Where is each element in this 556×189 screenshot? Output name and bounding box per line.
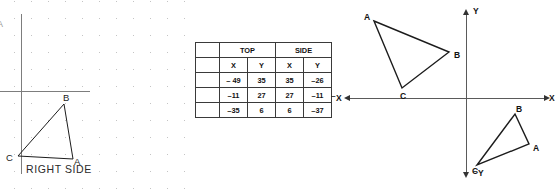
cell-top-x: – 49 (220, 73, 248, 88)
ul-vertex-label-c: C (400, 91, 406, 101)
sub-header-top-y: Y (248, 58, 276, 73)
coordinate-table: TOP SIDE X Y X Y – 49 35 35 –26 (195, 42, 332, 118)
lr-vertex-label-a: A (533, 143, 539, 153)
left-vertex-label-b: B (63, 92, 69, 103)
sub-header-blank (196, 58, 220, 73)
right-side-view-panel: A B C A RIGHT SIDE (0, 0, 190, 189)
cell-side-x: 27 (276, 88, 304, 103)
cell-side-y: –11 (304, 88, 332, 103)
row-label (196, 88, 220, 103)
cell-top-y: 6 (248, 103, 276, 118)
group-header-top: TOP (220, 43, 276, 58)
right-side-caption: RIGHT SIDE (26, 163, 92, 175)
row-label (196, 103, 220, 118)
cell-top-y: 27 (248, 88, 276, 103)
table-sub-header-row: X Y X Y (196, 58, 332, 73)
group-header-side: SIDE (276, 43, 332, 58)
ul-vertex-label-b: B (454, 50, 460, 60)
sub-header-side-x: X (276, 58, 304, 73)
cell-side-y: –37 (304, 103, 332, 118)
cell-top-x: –35 (220, 103, 248, 118)
sub-header-top-x: X (220, 58, 248, 73)
lr-vertex-label-c: C (472, 166, 478, 176)
figure-canvas: A B C A RIGHT SIDE TOP SIDE X Y X (0, 0, 556, 189)
right-side-triangle-outline (18, 104, 73, 159)
cell-side-x: 35 (276, 73, 304, 88)
plane-triangles (330, 0, 556, 189)
cell-top-y: 35 (248, 73, 276, 88)
row-label (196, 73, 220, 88)
ul-vertex-label-a: A (364, 12, 370, 22)
table-row: – 49 35 35 –26 (196, 73, 332, 88)
left-vertex-label-c: C (6, 152, 13, 163)
cell-top-x: –11 (220, 88, 248, 103)
table-row: –35 6 6 –37 (196, 103, 332, 118)
coordinate-table-container: TOP SIDE X Y X Y – 49 35 35 –26 (195, 42, 332, 118)
cell-side-y: –26 (304, 73, 332, 88)
table-group-header-row: TOP SIDE (196, 43, 332, 58)
triangle-quadrant-four-outline (477, 114, 529, 165)
table-row: –11 27 27 –11 (196, 88, 332, 103)
group-header-blank (196, 43, 220, 58)
right-side-triangle (0, 0, 190, 189)
triangle-quadrant-two-outline (374, 21, 449, 88)
cell-side-x: 6 (276, 103, 304, 118)
cartesian-plane: X ⁻X Y ⁻Y A B C B A C (330, 0, 556, 189)
lr-vertex-label-b: B (516, 104, 522, 114)
sub-header-side-y: Y (304, 58, 332, 73)
